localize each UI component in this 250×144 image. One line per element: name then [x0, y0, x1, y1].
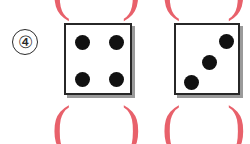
die-pip: [219, 34, 234, 49]
answer-blank-bottom-right-open-paren: (: [162, 98, 181, 144]
worksheet-page: ④ ()()()(): [0, 0, 250, 144]
answer-blank-top-right-open-paren: (: [162, 0, 181, 18]
left-die: [64, 23, 132, 95]
answer-blank-top-right-close-paren: ): [227, 0, 246, 18]
answer-blank-bottom-left-close-paren: ): [122, 98, 141, 144]
die-pip: [75, 72, 90, 87]
right-die: [174, 23, 240, 95]
die-pip: [75, 35, 90, 50]
answer-blank-top-left-close-paren: ): [122, 0, 141, 18]
die-pip: [109, 35, 124, 50]
die-pip: [109, 72, 124, 87]
answer-blank-bottom-right-close-paren: ): [227, 98, 246, 144]
die-pip: [184, 75, 199, 90]
item-number-badge: ④: [12, 29, 38, 55]
answer-blank-top-left-open-paren: (: [52, 0, 71, 18]
die-pip: [202, 55, 217, 70]
answer-blank-bottom-left-open-paren: (: [52, 98, 71, 144]
